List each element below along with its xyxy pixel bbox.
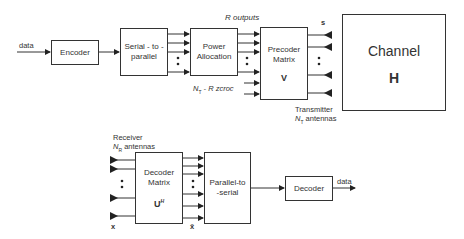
serial-to-parallel-line1: Serial - to - (124, 42, 163, 52)
r-outputs-label: R outputs (225, 13, 259, 22)
precoder-line1: Precoder (268, 45, 300, 55)
power-allocation-line2: Allocation (197, 52, 232, 62)
rx-input-symbol: x (111, 222, 115, 231)
serial-to-parallel-line2: parallel (131, 52, 157, 62)
parallel-to-serial-line2: -serial (217, 188, 239, 198)
decoder-matrix-symbol: UH (154, 196, 164, 209)
channel-block: Channel H (342, 14, 446, 111)
receiver-antenna-label: Receiver (113, 133, 143, 142)
precoder-line2: Matrix (273, 55, 295, 65)
precoder-symbol: V (281, 73, 287, 83)
decoder-matrix-line1: Decoder (144, 168, 174, 178)
rx-data-label: data (337, 177, 352, 186)
decoder-label: Decoder (294, 184, 324, 194)
transmitter-antenna-label: Transmitter (295, 105, 333, 114)
parallel-to-serial-line1: Parallel-to (209, 178, 245, 188)
nt-antennas-label: NT antennas (295, 114, 336, 125)
power-allocation-line1: Power (203, 42, 226, 52)
decoder-block: Decoder (285, 176, 333, 201)
tx-signal-symbol: s (321, 18, 325, 27)
decoder-matrix-line2: Matrix (148, 178, 170, 188)
nr-antennas-label: NR antennas (113, 142, 155, 153)
encoder-label: Encoder (60, 48, 90, 58)
power-allocation-block: Power Allocation (190, 28, 238, 76)
serial-to-parallel-block: Serial - to - parallel (120, 28, 168, 76)
rx-output-symbol: x̃ (190, 222, 194, 231)
parallel-to-serial-block: Parallel-to -serial (204, 152, 251, 224)
encoder-block: Encoder (51, 40, 99, 65)
channel-title: Channel (368, 43, 420, 59)
channel-symbol: H (389, 73, 399, 83)
decoder-matrix-block: Decoder Matrix UH (135, 152, 183, 224)
precoder-matrix-block: Precoder Matrix V (260, 27, 308, 100)
zeros-label: NT - R zcroc (193, 84, 234, 95)
tx-data-label: data (19, 41, 34, 50)
